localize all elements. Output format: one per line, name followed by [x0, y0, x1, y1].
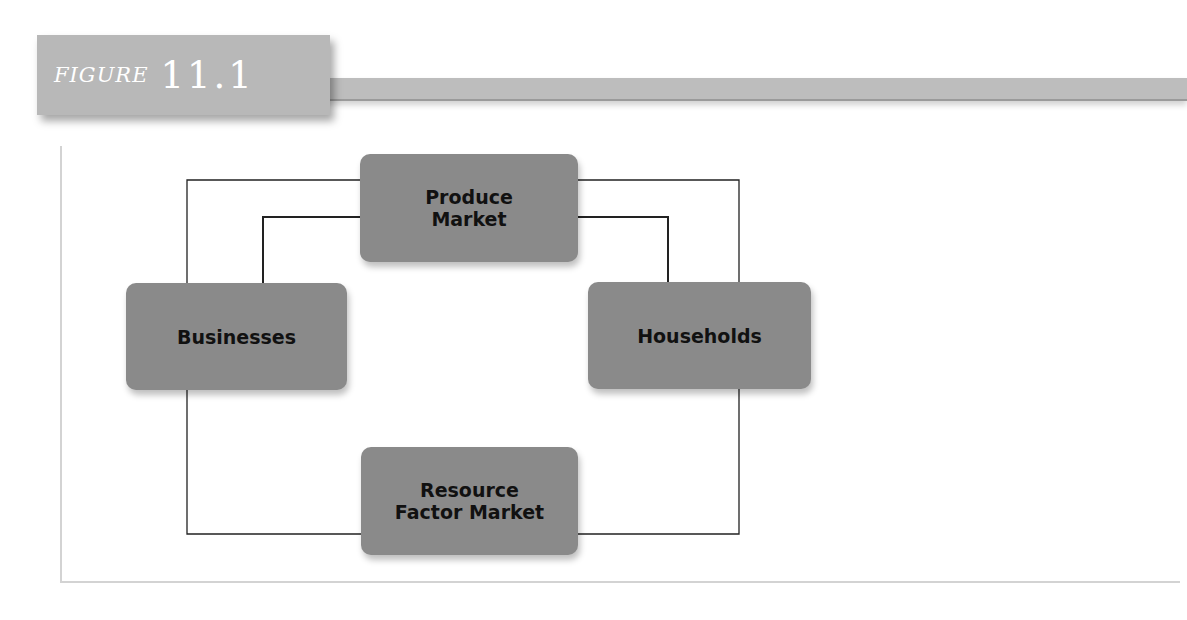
- outer-flow-bottom-left: [187, 390, 361, 534]
- inner-flow-left: [263, 217, 360, 283]
- node-businesses: Businesses: [126, 283, 347, 390]
- outer-flow-top-left: [187, 180, 360, 283]
- outer-flow-top-right: [578, 180, 739, 282]
- node-households: Households: [588, 282, 811, 389]
- outer-flow-bottom-right: [578, 389, 739, 534]
- node-resource-factor-market: Resource Factor Market: [361, 447, 578, 555]
- inner-flow-right: [578, 217, 668, 282]
- node-produce-market: Produce Market: [360, 154, 578, 262]
